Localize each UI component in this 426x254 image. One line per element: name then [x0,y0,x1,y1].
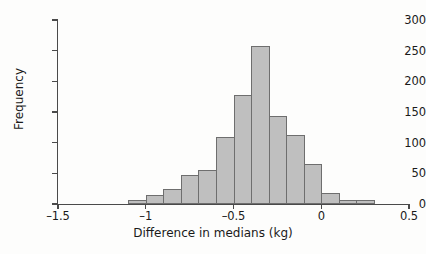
y-tick [52,50,57,51]
x-axis-label: Difference in medians (kg) [0,226,426,240]
histogram-bar [339,200,358,204]
histogram-bar [216,137,235,204]
y-tick [52,19,57,20]
x-tick-label: 0 [301,209,341,223]
plot-area [58,20,409,204]
histogram-bar [269,116,288,204]
y-tick [52,111,57,112]
histogram-bar [356,200,375,204]
x-tick-label: –1 [126,209,166,223]
histogram-bar [128,200,147,204]
x-tick-label: –1.5 [38,209,78,223]
histogram-bar [163,189,182,204]
x-tick-label: –0.5 [214,209,254,223]
x-tick-label: 0.5 [389,209,426,223]
histogram-bar [251,46,270,204]
histogram-bar [198,170,217,204]
histogram-bar [181,175,200,204]
y-tick [52,173,57,174]
y-axis-label: Frequency [12,44,26,154]
histogram-bar [146,195,165,204]
y-tick [52,81,57,82]
y-tick [52,142,57,143]
y-tick [52,203,57,204]
histogram-bar [234,95,253,204]
histogram-bar [321,193,340,204]
histogram-figure: 050100150200250300 –1.5–1–0.500.5 Differ… [0,0,426,254]
histogram-bar [286,135,305,204]
histogram-bar [304,164,323,204]
